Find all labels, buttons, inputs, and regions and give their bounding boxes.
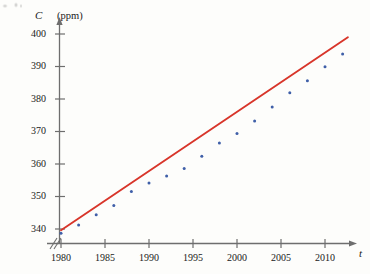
plot-area — [0, 0, 370, 274]
data-point — [200, 155, 203, 158]
x-axis-arrowhead — [349, 240, 357, 246]
data-point — [324, 65, 327, 68]
data-point — [77, 224, 80, 227]
data-point — [271, 106, 274, 109]
data-point — [95, 213, 98, 216]
data-point — [112, 204, 115, 207]
regression-line — [61, 37, 348, 230]
data-point — [148, 181, 151, 184]
data-point — [183, 167, 186, 170]
data-point — [253, 120, 256, 123]
data-point — [236, 132, 239, 135]
data-point — [60, 232, 63, 235]
data-point — [130, 190, 133, 193]
data-point — [288, 91, 291, 94]
y-axis-arrowhead — [56, 17, 62, 25]
data-point — [306, 79, 309, 82]
data-point-group — [60, 53, 345, 235]
data-point — [218, 141, 221, 144]
data-point — [341, 53, 344, 56]
data-point — [165, 175, 168, 178]
co2-scatter-chart: C (ppm) t 400 390 380 370 360 350 340 19… — [0, 0, 370, 274]
